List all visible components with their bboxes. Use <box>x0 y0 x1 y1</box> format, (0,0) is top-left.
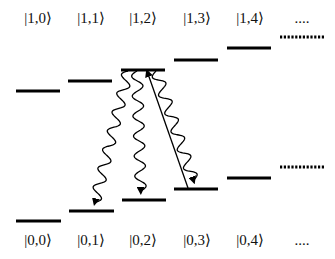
emission-wavy-arrow <box>132 71 146 193</box>
upper-state-label: |1,0⟩ <box>24 11 52 26</box>
transitions <box>93 71 197 204</box>
lower-state-label: |0,2⟩ <box>129 233 157 248</box>
upper-state-label: .... <box>295 11 310 26</box>
lower-state-label: .... <box>295 233 310 248</box>
emission-wavy-arrow <box>93 71 130 204</box>
emission-wavy-arrow <box>152 71 197 182</box>
excitation-arrow <box>147 71 188 188</box>
upper-state-label: |1,2⟩ <box>129 11 157 26</box>
lower-state-label: |0,4⟩ <box>236 233 264 248</box>
upper-state-label: |1,4⟩ <box>236 11 264 26</box>
lower-state-label: |0,0⟩ <box>24 233 52 248</box>
upper-state-label: |1,1⟩ <box>77 11 105 26</box>
lower-levels <box>16 167 325 221</box>
lower-state-label: |0,3⟩ <box>183 233 211 248</box>
energy-level-diagram <box>0 0 335 259</box>
upper-levels <box>16 37 325 91</box>
lower-state-label: |0,1⟩ <box>77 233 105 248</box>
upper-state-label: |1,3⟩ <box>183 11 211 26</box>
